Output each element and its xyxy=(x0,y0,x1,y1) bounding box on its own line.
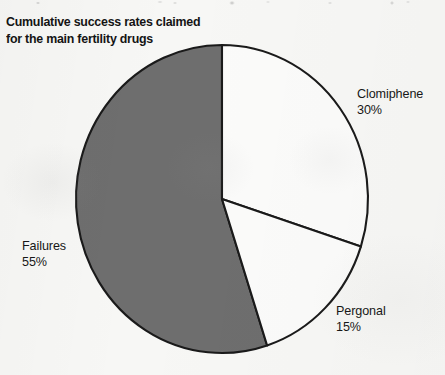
slice-label-failures-value: 55% xyxy=(22,254,66,270)
chart-title-line-1: Cumulative success rates claimed xyxy=(6,14,241,31)
slice-label-clomiphene-name: Clomiphene xyxy=(357,86,423,102)
slice-label-pergonal: Pergonal 15% xyxy=(336,303,386,335)
slice-label-pergonal-value: 15% xyxy=(336,319,386,335)
slice-label-clomiphene-value: 30% xyxy=(357,102,423,118)
slice-label-pergonal-name: Pergonal xyxy=(336,303,386,319)
chart-title: Cumulative success rates claimed for the… xyxy=(6,14,241,47)
slice-label-failures-name: Failures xyxy=(22,238,66,254)
chart-title-line-2: for the main fertility drugs xyxy=(6,31,241,48)
slice-label-failures: Failures 55% xyxy=(22,238,66,270)
slice-label-clomiphene: Clomiphene 30% xyxy=(357,86,423,118)
